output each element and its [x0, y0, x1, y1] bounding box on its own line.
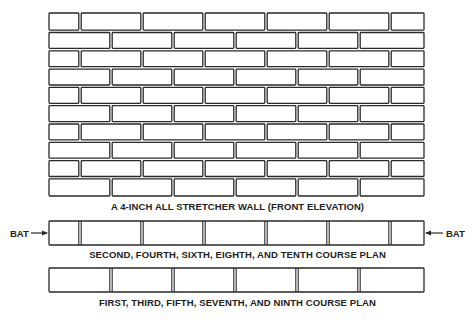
elevation-brick: [267, 161, 327, 177]
elevation-brick: [49, 106, 110, 122]
elevation-brick: [112, 179, 172, 196]
elevation-brick: [81, 124, 141, 140]
elevation-brick: [329, 124, 389, 140]
elevation-brick: [391, 13, 424, 30]
elevation-brick: [329, 13, 389, 30]
elevation-brick: [49, 13, 79, 30]
elevation-brick: [298, 179, 358, 196]
elevation-brick: [391, 87, 424, 103]
elevation-brick: [205, 87, 265, 103]
elevation-brick: [49, 124, 79, 140]
elevation-brick: [112, 142, 172, 158]
elevation-brick: [81, 13, 141, 30]
elevation-brick: [391, 124, 424, 140]
elevation-brick: [329, 51, 389, 67]
elevation-brick: [236, 106, 296, 122]
elevation-brick: [143, 124, 203, 140]
elevation-brick: [81, 87, 141, 103]
elevation-brick: [267, 87, 327, 103]
elevation-brick: [329, 87, 389, 103]
elevation-brick: [174, 106, 234, 122]
elevation-brick: [81, 161, 141, 177]
elevation-brick: [391, 51, 424, 67]
elevation-brick: [112, 106, 172, 122]
elevation-brick: [298, 69, 358, 85]
elevation-brick: [360, 179, 424, 196]
elevation-brick: [49, 33, 110, 49]
elevation-brick: [81, 51, 141, 67]
elevation-brick: [174, 69, 234, 85]
elevation-brick: [360, 69, 424, 85]
plan-outline: [49, 221, 424, 245]
elevation-brick: [267, 13, 327, 30]
elevation-brick: [267, 51, 327, 67]
wall-elevation-drawing: [0, 0, 475, 322]
elevation-brick: [143, 51, 203, 67]
elevation-brick: [360, 142, 424, 158]
elevation-brick: [236, 179, 296, 196]
elevation-brick: [298, 33, 358, 49]
elevation-brick: [236, 142, 296, 158]
elevation-brick: [49, 179, 110, 196]
bat-label-left: BAT: [10, 228, 29, 239]
elevation-brick: [236, 33, 296, 49]
elevation-brick: [143, 13, 203, 30]
elevation-brick: [298, 142, 358, 158]
even-course-plan-caption: SECOND, FOURTH, SIXTH, EIGHTH, AND TENTH…: [0, 249, 475, 260]
elevation-brick: [49, 142, 110, 158]
elevation-brick: [236, 69, 296, 85]
elevation-brick: [143, 87, 203, 103]
elevation-brick: [112, 69, 172, 85]
elevation-brick: [329, 161, 389, 177]
elevation-brick: [174, 33, 234, 49]
elevation-brick: [174, 179, 234, 196]
elevation-brick: [360, 106, 424, 122]
elevation-brick: [174, 142, 234, 158]
elevation-caption: A 4-INCH ALL STRETCHER WALL (FRONT ELEVA…: [0, 201, 475, 212]
bat-arrowhead-left-icon: [42, 231, 48, 236]
elevation-brick: [205, 51, 265, 67]
bat-label-right: BAT: [446, 228, 465, 239]
bat-arrowhead-right-icon: [425, 231, 431, 236]
elevation-brick: [205, 161, 265, 177]
elevation-brick: [49, 161, 79, 177]
elevation-brick: [298, 106, 358, 122]
elevation-brick: [360, 33, 424, 49]
elevation-brick: [112, 33, 172, 49]
elevation-brick: [391, 161, 424, 177]
odd-course-plan-caption: FIRST, THIRD, FIFTH, SEVENTH, AND NINTH …: [0, 297, 475, 308]
elevation-brick: [143, 161, 203, 177]
elevation-brick: [49, 51, 79, 67]
elevation-brick: [49, 69, 110, 85]
brick-wall-diagram: A 4-INCH ALL STRETCHER WALL (FRONT ELEVA…: [0, 0, 475, 322]
elevation-brick: [49, 87, 79, 103]
elevation-brick: [267, 124, 327, 140]
elevation-brick: [205, 124, 265, 140]
elevation-brick: [205, 13, 265, 30]
